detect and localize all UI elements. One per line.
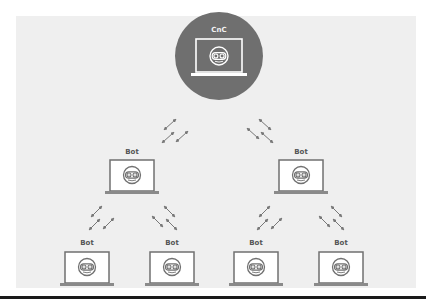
arrows-mid-right-bottom-4-icon [320, 207, 343, 229]
bot-laptop-icon-bottom-3 [229, 252, 283, 286]
arrows-mid-left-bottom-1-icon [90, 207, 113, 229]
bot-laptop-icon-bottom-2 [145, 252, 199, 286]
bot-laptop-icon-bottom-4 [314, 252, 368, 286]
arrows-cnc-mid-left-icon [163, 120, 187, 142]
bot-laptop-icon-mid-left [105, 160, 159, 194]
bot-laptop-icon-mid-right [274, 160, 328, 194]
arrows-mid-left-bottom-2-icon [153, 207, 176, 229]
cnc-laptop-icon [191, 39, 247, 76]
bot-laptop-icon-bottom-1 [60, 252, 114, 286]
arrows-mid-right-bottom-3-icon [258, 207, 281, 229]
arrows-cnc-mid-right-icon [248, 120, 272, 142]
diagram-graphics [0, 0, 435, 306]
